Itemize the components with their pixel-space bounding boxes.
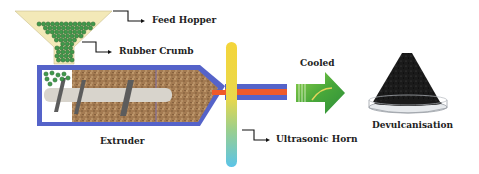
crumb-particle: [53, 78, 57, 82]
petri-dish-product: [369, 53, 447, 113]
crumb-particle: [79, 34, 83, 38]
crumb-particle: [79, 26, 83, 30]
crumb-particle: [88, 26, 92, 30]
crumb-particle: [50, 30, 54, 34]
crumb-particle: [48, 26, 52, 30]
crumb-particle: [82, 30, 86, 34]
crumb-particle: [55, 54, 59, 58]
crumb-particle: [65, 50, 69, 54]
crumb-particle: [46, 22, 50, 26]
crumb-particle: [70, 42, 74, 46]
crumb-particle: [91, 22, 95, 26]
crumb-particle: [41, 22, 45, 26]
label-extruder: Extruder: [100, 136, 144, 146]
ultrasonic-horn: [226, 42, 237, 167]
crumb-particle: [56, 50, 60, 54]
leader-rubber-crumb: [82, 42, 112, 54]
crumb-particle: [61, 34, 65, 38]
crumb-particle: [70, 34, 74, 38]
crumb-particle: [84, 26, 88, 30]
crumb-particle: [59, 22, 63, 26]
crumb-particle: [50, 22, 54, 26]
crumb-particle: [57, 26, 61, 30]
crumb-particle: [56, 34, 60, 38]
crumb-particle: [66, 76, 70, 80]
crumb-particle: [55, 30, 59, 34]
crumb-particle: [46, 30, 50, 34]
crumb-particle: [72, 38, 76, 42]
crumb-particle: [77, 22, 81, 26]
label-ultrasonic-horn: Ultrasonic Horn: [276, 134, 357, 144]
crumb-particle: [77, 30, 81, 34]
label-cooled: Cooled: [300, 58, 335, 68]
crumb-particle: [59, 38, 63, 42]
crumb-particle: [64, 54, 68, 58]
crumb-particle: [48, 82, 52, 86]
crumb-particle: [45, 77, 49, 81]
crumb-particle: [62, 72, 66, 76]
crumb-particle: [70, 26, 74, 30]
leader-feed-hopper: [113, 11, 145, 23]
crumb-particle: [68, 30, 72, 34]
crumb-particle: [54, 38, 58, 42]
crumb-particle: [61, 50, 65, 54]
crumb-particle: [65, 58, 69, 62]
crumb-particle: [52, 34, 56, 38]
crumb-particle: [65, 34, 69, 38]
crumb-particle: [55, 46, 59, 50]
crumb-particle: [64, 22, 68, 26]
crumb-particle: [74, 34, 78, 38]
crumb-particle: [73, 22, 77, 26]
crumb-particle: [73, 30, 77, 34]
crumb-particle: [56, 73, 60, 77]
crumb-particle: [56, 58, 60, 62]
label-feed-hopper: Feed Hopper: [152, 15, 216, 25]
crumb-particle: [44, 72, 48, 76]
crumb-particle: [82, 22, 86, 26]
crumb-particle: [59, 30, 63, 34]
crumb-particle: [65, 42, 69, 46]
crumb-particle: [61, 26, 65, 30]
crumb-particle: [59, 54, 63, 58]
crumb-particle: [75, 26, 79, 30]
crumb-particle: [66, 26, 70, 30]
leader-ultrasonic-horn: [242, 130, 270, 142]
crumb-particle: [68, 46, 72, 50]
crumb-particle: [68, 38, 72, 42]
crumb-particle: [43, 26, 47, 30]
crumb-particle: [61, 58, 65, 62]
crumb-particle: [37, 22, 41, 26]
crumb-particle: [50, 71, 54, 75]
crumb-particle: [63, 38, 67, 42]
crumb-particle: [68, 22, 72, 26]
label-devulcanisation: Devulcanisation: [372, 120, 453, 130]
crumb-particle: [70, 50, 74, 54]
crumb-particle: [61, 42, 65, 46]
crumb-particle: [59, 46, 63, 50]
label-rubber-crumb: Rubber Crumb: [119, 46, 193, 56]
crumb-particle: [64, 30, 68, 34]
crumb-particle: [52, 26, 56, 30]
crumb-particle: [64, 46, 68, 50]
crumb-particle: [68, 54, 72, 58]
cooled-arrow: [296, 72, 345, 114]
crumb-particle: [86, 22, 90, 26]
crumb-particle: [60, 77, 64, 81]
crumb-particle: [70, 58, 74, 62]
crumb-particle: [55, 22, 59, 26]
diagram-canvas: Feed Hopper Rubber Crumb Extruder Ultras…: [0, 0, 479, 174]
